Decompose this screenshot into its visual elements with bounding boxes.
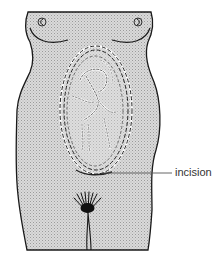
diagram: incision <box>0 0 219 255</box>
incision-label: incision <box>175 167 212 178</box>
torso-illustration <box>0 0 219 255</box>
